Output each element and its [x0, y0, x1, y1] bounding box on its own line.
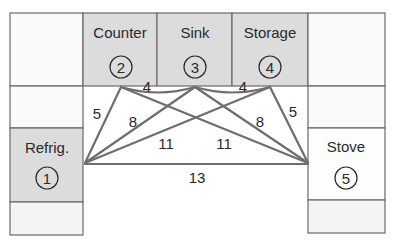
kitchen-layout-diagram: Counter Sink Storage Refrig. Stove 2 3 4…: [0, 0, 397, 248]
label-counter: Counter: [93, 24, 146, 41]
cell-right-bottom-blank: [308, 200, 385, 233]
distance-counter-stove: 11: [216, 135, 232, 152]
distance-refrig-sink: 8: [129, 113, 137, 130]
svg-text:4: 4: [266, 59, 274, 76]
distance-refrig-stove: 13: [189, 169, 206, 186]
distance-sink-stove: 8: [256, 113, 264, 130]
svg-text:2: 2: [117, 59, 125, 76]
distance-counter-sink: 4: [143, 78, 151, 95]
distance-lines: [85, 87, 308, 164]
distance-sink-storage: 4: [239, 78, 247, 95]
svg-text:1: 1: [43, 170, 51, 187]
distance-refrig-storage: 11: [158, 135, 174, 152]
svg-text:5: 5: [342, 170, 350, 187]
cell-left-mid-blank: [10, 86, 83, 128]
line-stove-storage: [270, 87, 308, 163]
label-storage: Storage: [244, 24, 297, 41]
cell-top-right-blank: [308, 13, 385, 86]
label-refrigerator: Refrig.: [25, 139, 69, 156]
cell-top-left-blank: [10, 13, 83, 86]
distance-refrig-counter: 5: [93, 105, 101, 122]
distance-storage-stove: 5: [289, 103, 297, 120]
cell-right-mid-blank: [308, 86, 385, 128]
label-sink: Sink: [180, 24, 210, 41]
cell-left-bottom-blank: [10, 202, 83, 235]
svg-text:3: 3: [191, 59, 199, 76]
line-stove-counter: [121, 87, 308, 163]
label-stove: Stove: [327, 138, 365, 155]
